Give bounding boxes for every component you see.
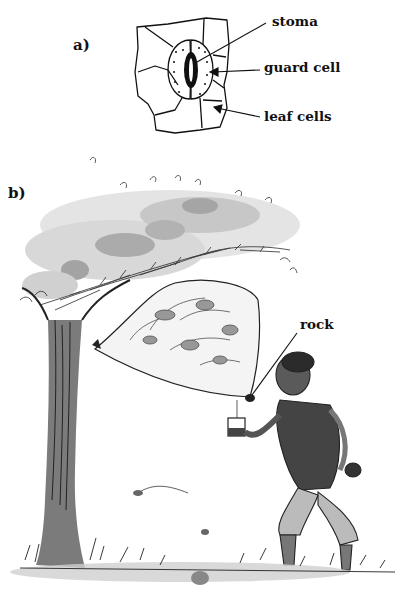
rock (245, 394, 255, 402)
transpiration-illustration (0, 0, 407, 594)
plastic-bag (92, 280, 260, 397)
tree-canopy (22, 190, 300, 299)
boy (245, 352, 361, 570)
tree-trunk (22, 280, 130, 568)
